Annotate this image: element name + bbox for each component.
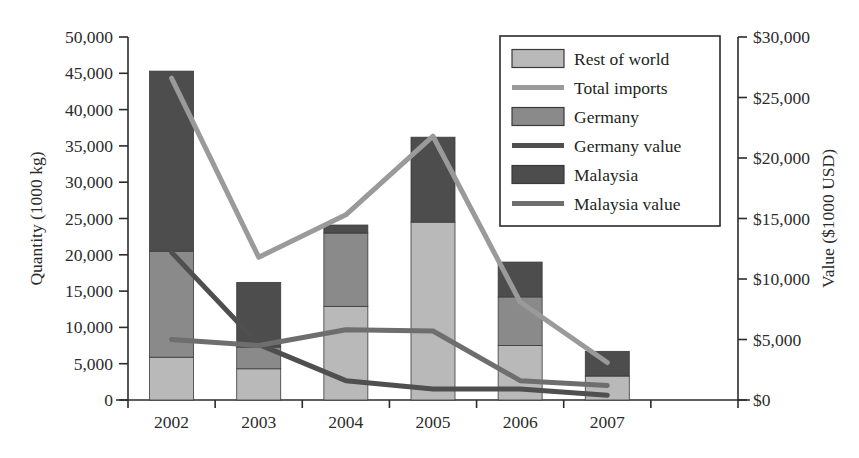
right-tick-label: $15,000	[753, 209, 810, 229]
x-axis-label: 2004	[328, 412, 363, 432]
left-tick-label: 50,000	[65, 27, 113, 47]
chart-figure: 05,00010,00015,00020,00025,00030,00035,0…	[0, 0, 859, 458]
legend-label: Total imports	[574, 78, 668, 98]
left-axis-ticks: 05,00010,00015,00020,00025,00030,00035,0…	[65, 27, 128, 410]
legend-label: Malaysia	[574, 165, 638, 185]
x-axis-label: 2006	[503, 412, 538, 432]
legend-label: Germany value	[574, 136, 682, 156]
right-tick-label: $5,000	[753, 330, 801, 350]
right-axis-ticks: $0$5,000$10,000$15,000$20,000$25,000$30,…	[738, 27, 810, 410]
right-tick-label: $0	[753, 390, 771, 410]
legend-label: Malaysia value	[574, 194, 681, 214]
y-axis-title-right: Value ($1000 USD)	[818, 149, 838, 288]
left-tick-label: 5,000	[74, 354, 114, 374]
right-tick-label: $10,000	[753, 269, 810, 289]
y-axis-title-left: Quantity (1000 kg)	[26, 151, 46, 285]
legend-swatch-box	[512, 166, 564, 184]
bar-segment	[150, 71, 194, 251]
bar-segment	[411, 222, 455, 400]
bar-segment	[150, 357, 194, 400]
right-tick-label: $25,000	[753, 88, 810, 108]
left-tick-label: 15,000	[65, 281, 113, 301]
left-tick-label: 45,000	[65, 63, 113, 83]
right-tick-label: $20,000	[753, 148, 810, 168]
cropped-header-text	[150, 0, 570, 5]
legend-swatch-box	[512, 108, 564, 126]
x-axis-label: 2005	[416, 412, 451, 432]
bar-segment	[498, 262, 542, 297]
legend-swatch-box	[512, 50, 564, 68]
left-tick-label: 35,000	[65, 136, 113, 156]
legend-label: Rest of world	[574, 49, 670, 69]
bar-segment	[237, 282, 281, 347]
combo-chart-canvas: 05,00010,00015,00020,00025,00030,00035,0…	[0, 0, 859, 458]
x-axis-label: 2007	[590, 412, 625, 432]
left-tick-label: 25,000	[65, 209, 113, 229]
left-tick-label: 10,000	[65, 317, 113, 337]
left-tick-label: 20,000	[65, 245, 113, 265]
left-tick-label: 30,000	[65, 172, 113, 192]
x-axis-label: 2002	[154, 412, 189, 432]
x-axis-label: 2003	[241, 412, 276, 432]
right-tick-label: $30,000	[753, 27, 810, 47]
bar-segment	[324, 306, 368, 400]
bar-segment	[237, 369, 281, 400]
bar-segment	[324, 233, 368, 306]
bar-segment	[324, 225, 368, 233]
x-axis-category-labels: 200220032004200520062007	[128, 400, 738, 432]
left-tick-label: 40,000	[65, 100, 113, 120]
legend-label: Germany	[574, 107, 639, 127]
chart-legend: Rest of worldTotal importsGermanyGermany…	[500, 36, 720, 226]
left-tick-label: 0	[104, 390, 113, 410]
